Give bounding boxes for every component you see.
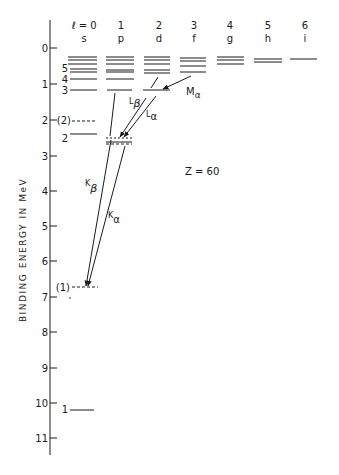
column-letter: f bbox=[192, 33, 196, 44]
atomic-number-annotation: Z = 60 bbox=[185, 166, 219, 177]
level-label: 5 bbox=[62, 63, 68, 74]
transition-label-l-beta: Lβ bbox=[129, 97, 141, 110]
column-l-value: 3 bbox=[191, 20, 197, 31]
transition-label-l-alpha: Lα bbox=[146, 110, 157, 122]
column-letter: h bbox=[265, 33, 271, 44]
column-letter: g bbox=[227, 33, 233, 44]
y-tick-label: 0 bbox=[42, 43, 48, 54]
column-letter: s bbox=[81, 33, 86, 44]
y-tick-label: 1 bbox=[42, 79, 48, 90]
level-label: (2) bbox=[57, 115, 71, 126]
column-l-value: 5 bbox=[265, 20, 271, 31]
energy-level-diagram: 0 1 2 3 4 5 6 7 8 9 10 11 BINDING ENERGY… bbox=[0, 0, 339, 475]
speck bbox=[69, 297, 71, 299]
level-label: (1) bbox=[56, 282, 70, 293]
y-tick-label: 6 bbox=[42, 256, 48, 267]
y-tick-label: 2 bbox=[42, 115, 48, 126]
y-tick-label: 7 bbox=[42, 292, 48, 303]
column-l-value: 1 bbox=[118, 20, 124, 31]
y-tick-label: 10 bbox=[35, 398, 48, 409]
level-label: 1 bbox=[62, 404, 68, 415]
column-letter: d bbox=[156, 33, 162, 44]
transition-label-k-beta: Kβ bbox=[85, 179, 97, 195]
y-tick-label: 4 bbox=[42, 186, 48, 197]
column-l-value: 4 bbox=[227, 20, 233, 31]
level-label: 3 bbox=[62, 85, 68, 96]
energy-levels bbox=[68, 57, 317, 410]
column-l-value: ℓ = 0 bbox=[71, 20, 96, 31]
column-letter: p bbox=[118, 33, 124, 44]
y-tick-label: 5 bbox=[42, 221, 48, 232]
y-ticks bbox=[50, 48, 57, 438]
column-l-value: 2 bbox=[156, 20, 162, 31]
column-l-value: 6 bbox=[302, 20, 308, 31]
y-axis-title: BINDING ENERGY IN MeV bbox=[18, 178, 28, 322]
y-tick-label: 8 bbox=[42, 327, 48, 338]
y-tick-label: 9 bbox=[42, 363, 48, 374]
y-tick-label: 11 bbox=[35, 433, 48, 444]
y-tick-label: 3 bbox=[42, 151, 48, 162]
level-label: 4 bbox=[62, 74, 68, 85]
transition-label-k-alpha: Kα bbox=[108, 211, 120, 225]
level-label: 2 bbox=[62, 133, 68, 144]
column-letter: i bbox=[304, 33, 307, 44]
transition-label-m-alpha: Mα bbox=[186, 86, 201, 100]
